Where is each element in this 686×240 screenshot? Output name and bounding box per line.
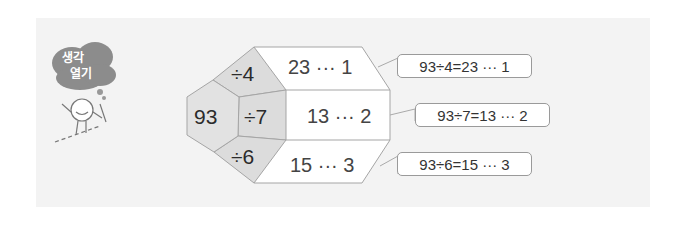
result-label: 13 ··· 2 bbox=[307, 106, 371, 126]
dividend-label: 93 bbox=[194, 106, 217, 127]
equation-box: 93÷7=13 ··· 2 bbox=[415, 103, 550, 127]
equation-text: 93÷4=23 ··· 1 bbox=[419, 58, 509, 75]
smiley-character-icon bbox=[55, 99, 106, 142]
equation-box: 93÷4=23 ··· 1 bbox=[397, 54, 532, 78]
divisor-label: ÷6 bbox=[231, 146, 254, 167]
divisor-label: ÷7 bbox=[244, 106, 267, 127]
result-label: 15 ··· 3 bbox=[290, 155, 354, 175]
equation-text: 93÷6=15 ··· 3 bbox=[419, 156, 509, 173]
badge-line2: 열기 bbox=[70, 68, 92, 80]
divisor-label: ÷4 bbox=[231, 63, 254, 84]
equation-text: 93÷7=13 ··· 2 bbox=[437, 107, 527, 124]
badge-line1: 생각 bbox=[62, 52, 84, 64]
result-label: 23 ··· 1 bbox=[288, 57, 352, 77]
equation-box: 93÷6=15 ··· 3 bbox=[397, 152, 532, 176]
